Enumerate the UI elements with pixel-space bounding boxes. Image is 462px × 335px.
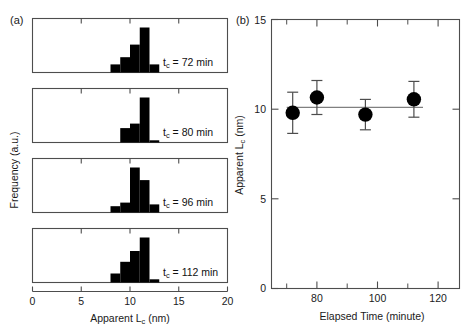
x-tick-label: 120	[429, 292, 447, 304]
scientific-figure-svg: (a) tc = 72 min	[0, 0, 462, 335]
bar	[150, 140, 160, 142]
x-tick-label: 15	[173, 295, 185, 307]
histogram-bars	[111, 28, 160, 73]
annot-text: = 112 min	[170, 266, 219, 278]
plot-box	[272, 20, 460, 289]
subpanel-annotation: tc = 112 min	[163, 266, 218, 280]
x-tick-label: 10	[124, 295, 136, 307]
x-tick-label: 5	[78, 295, 84, 307]
bar	[130, 45, 140, 73]
histogram-bars	[120, 98, 159, 143]
bar	[150, 204, 160, 212]
subpanel-annotation: tc = 80 min	[163, 126, 213, 140]
x-tick-label: 80	[311, 292, 323, 304]
x-tick-label: 20	[222, 295, 234, 307]
bar	[111, 274, 121, 283]
y-axis-title-main: Apparent L	[233, 143, 245, 195]
panel-a: (a) tc = 72 min	[8, 14, 233, 326]
bar	[150, 279, 160, 282]
histogram-subpanel-112min: tc = 112 min	[33, 229, 228, 283]
y-axis-title-unit: (nm)	[233, 115, 245, 140]
x-axis-title-unit: (nm)	[145, 312, 170, 324]
bar	[140, 238, 150, 283]
panel-b-label: (b)	[236, 14, 249, 26]
x-axis-title-main: Apparent L	[90, 312, 142, 324]
x-tick-label: 0	[30, 295, 36, 307]
bar	[111, 64, 121, 72]
data-point-group	[310, 81, 324, 115]
figure-container: (a) tc = 72 min	[0, 0, 462, 335]
data-point-group	[286, 92, 300, 133]
bar	[140, 180, 150, 212]
annot-text: = 80 min	[170, 126, 214, 138]
panel-a-label: (a)	[10, 14, 23, 26]
panel-a-x-axis: 0 5 10 15 20 Apparent Lc (nm)	[30, 287, 234, 327]
x-axis-title: Elapsed Time (minute)	[319, 310, 424, 322]
bar	[120, 262, 130, 283]
bar	[140, 98, 150, 143]
bar	[130, 251, 140, 283]
x-tick-label: 100	[369, 292, 387, 304]
y-axis-title: Frequency (a.u.)	[8, 131, 20, 208]
subpanel-annotation: tc = 72 min	[163, 56, 213, 70]
bar	[140, 28, 150, 73]
y-axis-title: Apparent Lc (nm)	[233, 115, 247, 195]
bar	[120, 57, 130, 72]
subpanel-annotation: tc = 96 min	[163, 196, 213, 210]
bar	[120, 128, 130, 142]
bar	[111, 206, 121, 212]
y-tick-label: 10	[254, 103, 266, 115]
bar	[130, 168, 140, 213]
bar	[120, 203, 130, 213]
annot-text: = 72 min	[170, 56, 214, 68]
data-point-group	[358, 99, 372, 129]
histogram-subpanel-96min: tc = 96 min	[33, 159, 228, 213]
data-point-group	[407, 81, 421, 117]
annot-text: = 96 min	[170, 196, 214, 208]
y-tick-label: 15	[254, 14, 266, 26]
bar	[150, 64, 160, 72]
data-marker	[358, 107, 372, 121]
bar	[130, 124, 140, 143]
data-marker	[310, 90, 324, 104]
y-tick-label: 0	[260, 282, 266, 294]
histogram-bars	[111, 238, 160, 283]
panel-b-x-axis: 80 100 120 Elapsed Time (minute)	[287, 20, 447, 323]
x-axis-title: Apparent Lc (nm)	[90, 312, 170, 326]
data-marker	[286, 106, 300, 120]
y-tick-label: 5	[260, 193, 266, 205]
histogram-subpanel-72min: tc = 72 min	[33, 19, 228, 73]
histogram-bars	[111, 168, 160, 213]
histogram-subpanel-80min: tc = 80 min	[33, 89, 228, 143]
panel-b-y-axis: 15 10 5 0 Apparent Lc (nm)	[233, 14, 460, 295]
data-marker	[407, 92, 421, 106]
panel-b: (b) 15 10 5 0 Apparent Lc (nm)	[233, 14, 460, 323]
